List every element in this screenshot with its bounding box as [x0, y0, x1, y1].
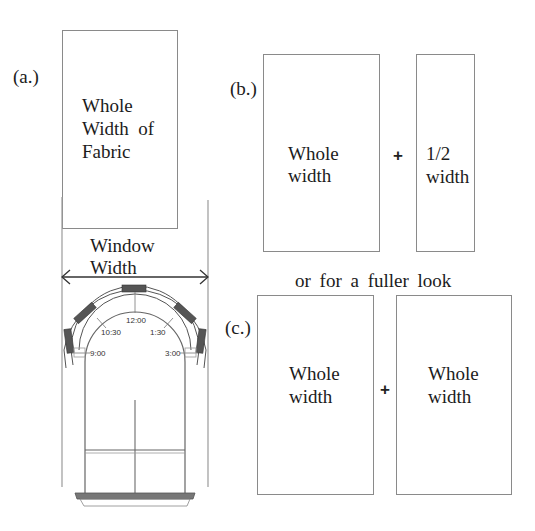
panel-c-right-text-2: width — [428, 386, 471, 408]
panel-c-plus: + — [380, 380, 390, 400]
panel-b-label: (b.) — [230, 78, 257, 100]
panel-c-label: (c.) — [225, 317, 251, 339]
clock-label-3: 3:00 — [165, 349, 181, 358]
clock-label-12: 12:00 — [126, 316, 146, 325]
panel-c-right-whole-width: Whole width — [396, 295, 512, 495]
panel-c-left-whole-width: Whole width — [257, 295, 374, 495]
panel-b-plus: + — [393, 146, 403, 166]
panel-b-left-text-2: width — [288, 165, 331, 187]
panel-c-right-text-1: Whole — [428, 363, 479, 385]
fuller-look-caption: or for a fuller look — [295, 270, 451, 292]
clock-label-9: 9:00 — [90, 349, 106, 358]
width-arrow-icon — [62, 270, 208, 284]
clock-label-130: 1:30 — [150, 328, 166, 337]
window-sill — [75, 493, 195, 506]
window-frame — [85, 312, 185, 493]
panel-c-left-text-1: Whole — [289, 363, 340, 385]
panel-b-right-text-2: width — [426, 166, 469, 188]
panel-b-right-text-1: 1/2 — [426, 143, 450, 165]
panel-c-left-text-2: width — [289, 386, 332, 408]
panel-b-half-width: 1/2 width — [416, 54, 475, 252]
clock-label-1030: 10:30 — [101, 328, 121, 337]
panel-b-left-text-1: Whole — [288, 143, 339, 165]
panel-b-whole-width: Whole width — [263, 54, 380, 252]
